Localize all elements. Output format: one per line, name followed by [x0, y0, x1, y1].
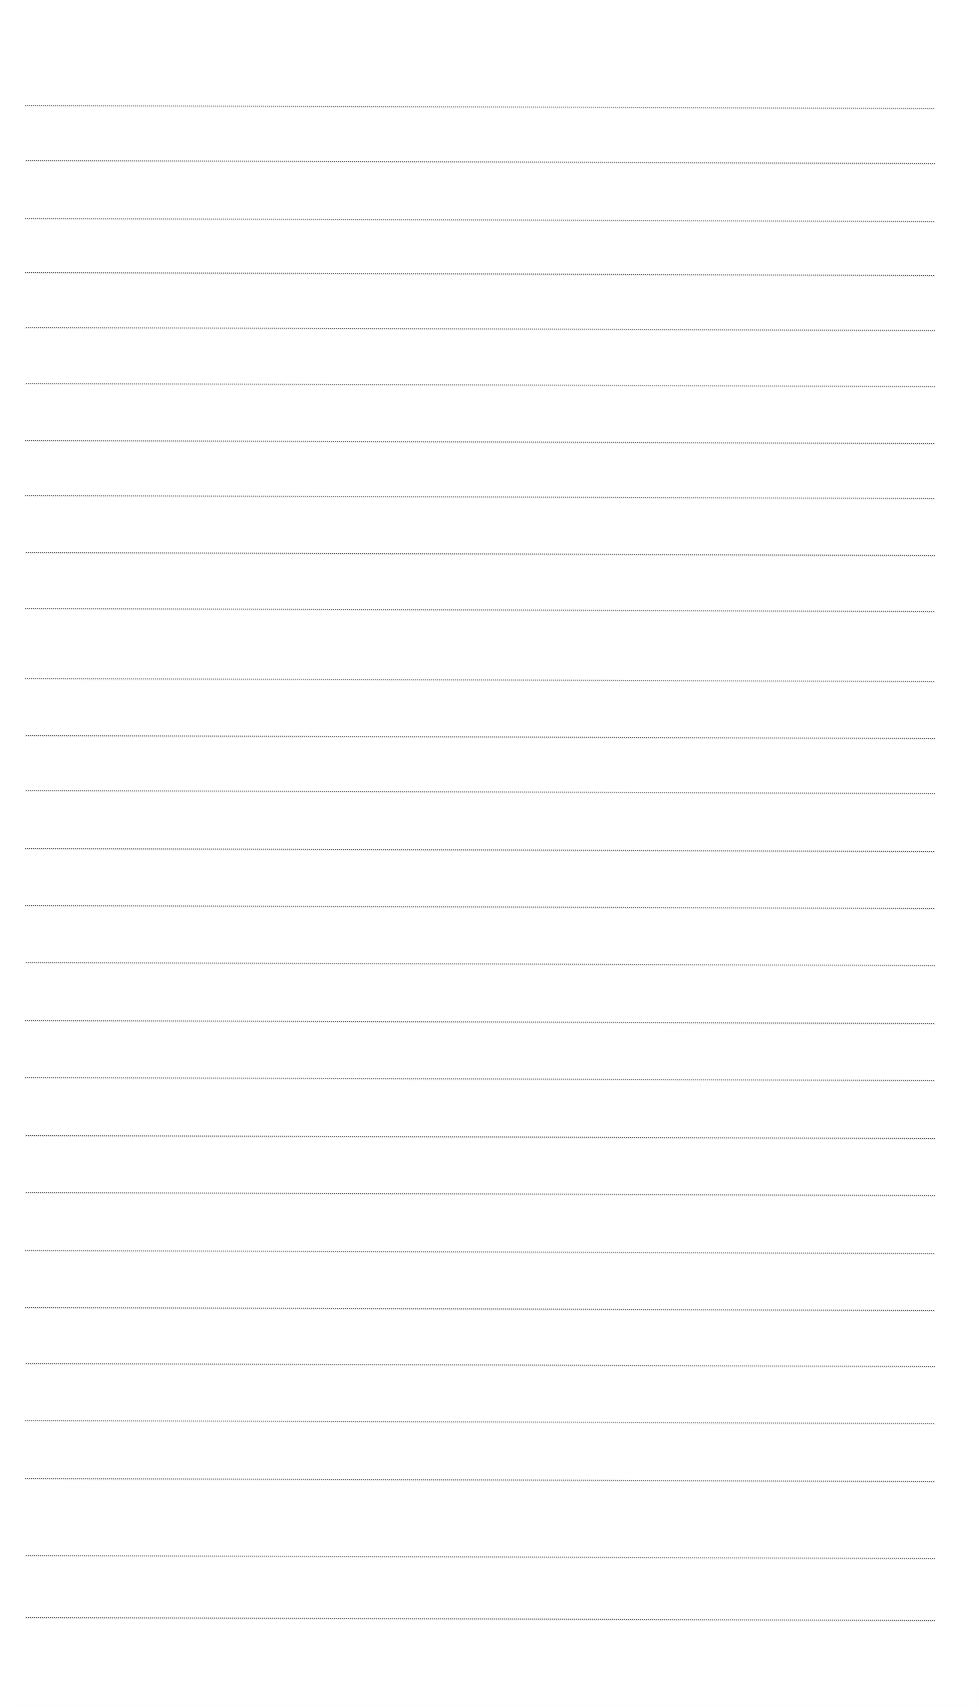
- scanned-page: [0, 0, 979, 1707]
- page-text-content: [0, 0, 979, 1707]
